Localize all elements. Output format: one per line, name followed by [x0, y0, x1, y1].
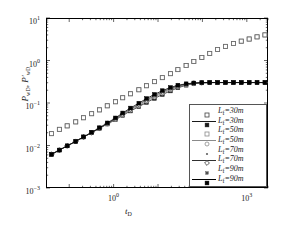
- data-point: [57, 148, 61, 152]
- data-point: [168, 72, 172, 76]
- legend-symbol: [192, 156, 216, 165]
- y-tick-label: 101: [0, 14, 40, 26]
- figure: PwD, P′wD tD 10−310−210−1100101 100103 L…: [0, 0, 282, 232]
- legend[interactable]: Lf=30mLf=30mLf=50mLf=50mLf=70mLf=70mLf=9…: [189, 104, 267, 187]
- data-point: [105, 104, 109, 108]
- data-point: [255, 35, 259, 39]
- legend-symbol: [192, 146, 216, 155]
- x-tick-label: 103: [233, 191, 261, 203]
- data-point: [208, 51, 212, 55]
- data-point: [263, 33, 267, 37]
- y-tick-label: 100: [0, 57, 40, 69]
- data-point: [216, 81, 220, 85]
- data-point: [206, 172, 209, 175]
- data-point: [232, 81, 236, 85]
- data-point: [128, 92, 132, 96]
- data-point: [247, 37, 251, 41]
- data-point: [160, 76, 164, 80]
- data-point: [65, 124, 69, 128]
- data-point: [50, 152, 54, 156]
- data-point: [113, 100, 117, 104]
- legend-label: Lf=90m: [216, 175, 244, 185]
- y-tick-label: 10−3: [0, 184, 40, 196]
- data-point: [57, 127, 61, 131]
- data-point: [114, 116, 118, 120]
- data-point: [263, 81, 267, 85]
- data-point: [97, 108, 101, 112]
- data-point: [137, 88, 141, 92]
- data-point: [152, 80, 156, 84]
- data-point: [65, 144, 69, 148]
- data-point: [206, 152, 208, 154]
- data-point: [121, 111, 125, 115]
- data-point: [231, 42, 235, 46]
- legend-item-7[interactable]: Lf=90m: [192, 175, 264, 185]
- data-point: [239, 81, 243, 85]
- data-point: [137, 101, 141, 105]
- data-point: [184, 82, 188, 86]
- data-point: [216, 47, 220, 51]
- data-point: [82, 116, 86, 120]
- data-point: [176, 68, 180, 72]
- data-point: [90, 130, 94, 134]
- x-tick-label: 100: [100, 191, 128, 203]
- data-point: [160, 89, 164, 93]
- data-point: [168, 86, 172, 90]
- data-point: [82, 135, 86, 139]
- data-point: [255, 81, 259, 85]
- data-point: [184, 64, 188, 68]
- data-point: [176, 83, 180, 87]
- data-point: [90, 112, 94, 116]
- data-point: [153, 93, 157, 97]
- legend-symbol: [192, 117, 216, 126]
- y-tick-label: 10−1: [0, 99, 40, 111]
- data-point: [208, 81, 212, 85]
- y-tick-label: 10−2: [0, 142, 40, 154]
- data-point: [239, 39, 243, 43]
- legend-symbol: [192, 165, 216, 174]
- legend-symbol: [192, 107, 216, 116]
- data-point: [50, 132, 54, 136]
- data-point: [192, 59, 196, 63]
- x-axis-label: tD: [125, 207, 132, 219]
- legend-symbol: [192, 136, 216, 145]
- data-point: [105, 121, 109, 125]
- data-point: [192, 81, 196, 85]
- legend-symbol: [192, 175, 216, 184]
- data-point: [145, 97, 149, 101]
- legend-marker-square-filled: [202, 178, 212, 188]
- data-point: [200, 81, 204, 85]
- legend-symbol: [192, 127, 216, 136]
- data-point: [224, 81, 228, 85]
- data-point: [200, 55, 204, 59]
- data-point: [121, 96, 125, 100]
- data-point: [98, 126, 102, 130]
- data-point: [129, 106, 133, 110]
- data-point: [144, 84, 148, 88]
- data-point: [247, 81, 251, 85]
- data-point: [205, 181, 209, 185]
- data-point: [74, 120, 78, 124]
- data-point: [223, 44, 227, 48]
- data-point: [74, 139, 78, 143]
